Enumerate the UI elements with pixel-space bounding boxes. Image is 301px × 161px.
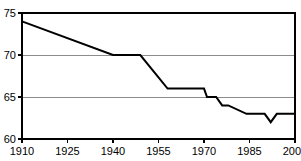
x-axis-tick-label: 2000 [283, 145, 301, 157]
y-axis-labels: 60657075 [4, 7, 16, 145]
y-axis-tick-label: 60 [4, 133, 16, 145]
y-axis-tick-label: 70 [4, 49, 16, 61]
x-axis-labels: 1910192519401955197019852000 [10, 145, 301, 157]
chart-container: 60657075 1910192519401955197019852000 [0, 0, 301, 161]
line-chart: 60657075 1910192519401955197019852000 [0, 0, 301, 161]
cropped-title-ghost [0, 0, 301, 9]
y-axis-tick-label: 65 [4, 91, 16, 103]
x-axis-tick-label: 1940 [101, 145, 125, 157]
x-axis-tick-label: 1970 [192, 145, 216, 157]
x-axis-tick-label: 1985 [237, 145, 261, 157]
x-axis-tick-label: 1925 [55, 145, 79, 157]
x-axis-tick-label: 1910 [10, 145, 34, 157]
data-series-line [22, 21, 295, 122]
x-axis-tick-label: 1955 [146, 145, 170, 157]
